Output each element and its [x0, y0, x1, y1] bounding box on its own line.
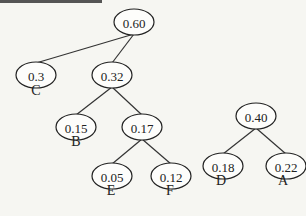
leaf-label: B: [71, 134, 80, 150]
tree-node: 0.17: [122, 114, 162, 140]
node-value: 0.17: [131, 121, 154, 136]
node-value: 0.60: [123, 16, 146, 31]
huffman-tree-diagram: 0.600.30.320.150.170.050.120.400.180.22: [0, 0, 306, 216]
tree-edge: [112, 34, 134, 63]
node-value: 0.40: [245, 110, 268, 125]
node-value: 0.32: [101, 69, 124, 84]
tree-edge: [76, 87, 112, 115]
tree-edge: [112, 87, 142, 115]
tree-node: 0.60: [114, 9, 154, 35]
leaf-label: E: [107, 183, 116, 199]
tree-edge: [223, 128, 256, 154]
leaf-label: C: [31, 83, 40, 99]
tree-node: 0.32: [92, 62, 132, 88]
tree-node: 0.40: [236, 103, 276, 129]
leaf-label: F: [166, 183, 174, 199]
tree-edge: [112, 139, 142, 164]
tree-edge: [256, 128, 286, 154]
tree-edge: [36, 34, 134, 63]
tree-edge: [142, 139, 171, 164]
leaf-label: D: [216, 173, 226, 189]
leaf-label: A: [278, 173, 288, 189]
node-value: 0.3: [28, 69, 44, 84]
